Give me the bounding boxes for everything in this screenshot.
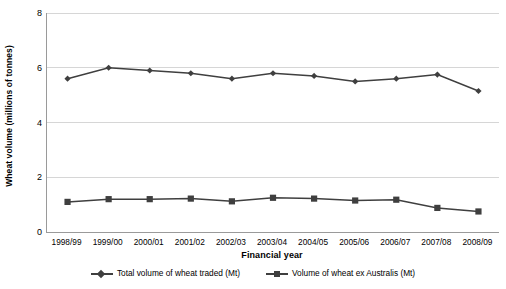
x-tick-label: 2002/03 — [208, 237, 254, 247]
square-marker — [270, 195, 276, 201]
diamond-marker — [91, 269, 113, 278]
y-tick-label: 2 — [20, 172, 42, 182]
diamond-marker — [106, 65, 112, 71]
x-tick-label: 2005/06 — [331, 237, 377, 247]
series-1 — [64, 65, 481, 94]
diamond-marker — [311, 73, 317, 79]
square-marker — [434, 205, 440, 211]
diamond-marker — [64, 76, 70, 82]
square-marker — [475, 208, 481, 214]
square-marker — [64, 199, 70, 205]
diamond-marker — [352, 78, 358, 84]
diamond-marker — [434, 71, 440, 77]
legend-label: Total volume of wheat traded (Mt) — [117, 268, 240, 279]
diamond-marker — [475, 88, 481, 94]
square-marker — [274, 271, 281, 278]
plot-area — [46, 13, 499, 233]
line-chart: Wheat volume (millions of tonnes) 02468 … — [0, 0, 506, 289]
x-tick-label: 2006/07 — [372, 237, 418, 247]
x-tick-label: 2004/05 — [290, 237, 336, 247]
square-marker — [188, 196, 194, 202]
diamond-marker — [393, 76, 399, 82]
square-marker — [229, 198, 235, 204]
diamond-marker — [270, 70, 276, 76]
x-tick-label: 2008/09 — [454, 237, 500, 247]
x-tick-label: 1999/00 — [85, 237, 131, 247]
diamond-marker — [188, 70, 194, 76]
square-marker — [311, 196, 317, 202]
series-2 — [64, 195, 481, 215]
legend-entry[interactable]: Volume of wheat ex Australis (Mt) — [266, 268, 415, 279]
y-tick-label: 4 — [20, 118, 42, 128]
square-marker — [106, 196, 112, 202]
diamond-marker — [229, 76, 235, 82]
chart-legend: Total volume of wheat traded (Mt)Volume … — [0, 268, 506, 279]
diamond-marker — [97, 269, 105, 277]
x-tick-label: 1998/99 — [44, 237, 90, 247]
square-marker — [352, 197, 358, 203]
y-tick-label: 6 — [20, 63, 42, 73]
diamond-marker — [147, 67, 153, 73]
x-tick-label: 2007/08 — [413, 237, 459, 247]
x-tick-label: 2001/02 — [167, 237, 213, 247]
y-tick-label: 0 — [20, 227, 42, 237]
x-tick-label: 2000/01 — [126, 237, 172, 247]
y-tick-label: 8 — [20, 8, 42, 18]
series-canvas — [47, 13, 499, 232]
square-marker — [147, 196, 153, 202]
square-marker — [266, 269, 288, 278]
legend-entry[interactable]: Total volume of wheat traded (Mt) — [91, 268, 240, 279]
x-axis-title: Financial year — [46, 250, 498, 260]
y-axis-title: Wheat volume (millions of tonnes) — [2, 0, 16, 232]
legend-label: Volume of wheat ex Australis (Mt) — [292, 268, 415, 279]
square-marker — [393, 197, 399, 203]
x-tick-label: 2003/04 — [249, 237, 295, 247]
